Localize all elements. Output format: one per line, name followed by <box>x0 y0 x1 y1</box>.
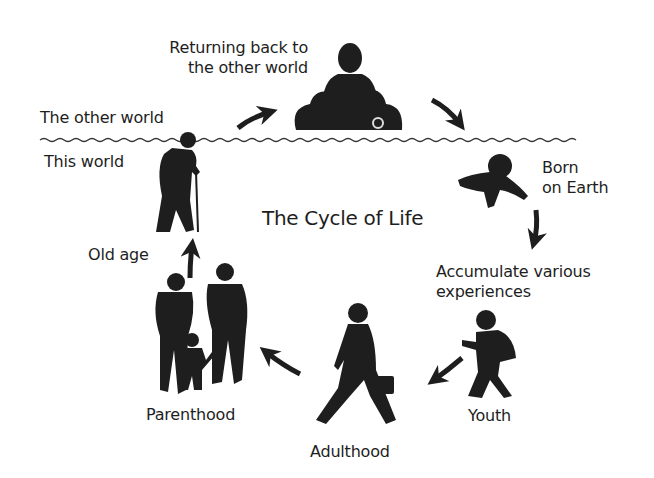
stage-label-return: Returning back to the other world <box>120 38 308 78</box>
return-label-line-1: Returning back to <box>120 38 308 58</box>
elderly-man-with-cane-icon <box>156 132 200 232</box>
arrow-to-birth <box>432 100 460 124</box>
stage-label-old-age: Old age <box>88 245 149 265</box>
meditating-figure-on-cloud-icon <box>295 43 403 130</box>
born-label-line-2: on Earth <box>542 178 608 198</box>
diagram-title: The Cycle of Life <box>262 206 423 230</box>
walking-child-with-backpack-icon <box>462 310 516 398</box>
arrow-to-experiences <box>534 210 537 242</box>
realm-label-this-world: This world <box>44 152 124 172</box>
return-label-line-2: the other world <box>120 58 308 78</box>
family-parents-and-child-icon <box>155 263 247 394</box>
arrow-to-old-age <box>190 246 192 278</box>
arrow-to-parenthood <box>266 352 300 374</box>
stage-label-parenthood: Parenthood <box>146 405 235 425</box>
world-divider-wave <box>40 139 576 142</box>
born-label-line-1: Born <box>542 158 608 178</box>
experiences-label-line-2: experiences <box>436 282 591 302</box>
arrow-to-adulthood <box>434 358 462 380</box>
stage-label-experiences: Accumulate various experiences <box>436 262 591 302</box>
cycle-artwork <box>0 0 654 478</box>
arrow-to-other-world <box>238 112 270 128</box>
businessman-with-briefcase-icon <box>316 303 396 424</box>
stage-label-born: Born on Earth <box>542 158 608 198</box>
experiences-label-line-1: Accumulate various <box>436 262 591 282</box>
realm-label-other-world: The other world <box>40 108 164 128</box>
stage-label-youth: Youth <box>468 406 511 426</box>
stage-label-adulthood: Adulthood <box>310 442 390 462</box>
crawling-baby-icon <box>458 154 528 208</box>
